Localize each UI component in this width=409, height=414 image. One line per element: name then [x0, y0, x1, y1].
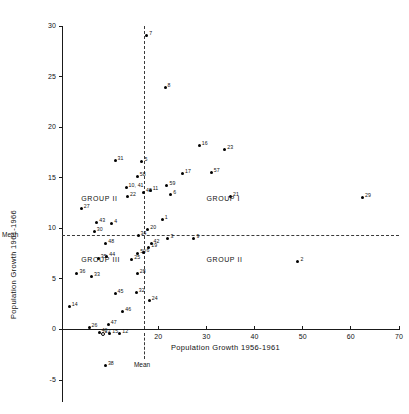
- data-point-label: 46: [125, 306, 131, 312]
- data-point: [110, 222, 113, 225]
- data-point-label: 17: [185, 168, 191, 174]
- data-point: [68, 305, 71, 308]
- data-point: [166, 237, 169, 240]
- data-point: [118, 332, 121, 335]
- data-point-label: 30: [97, 226, 103, 232]
- x-tick: [158, 326, 159, 330]
- data-point: [137, 234, 140, 237]
- data-point-label: 7: [149, 30, 152, 36]
- data-point: [107, 323, 110, 326]
- data-point: [169, 193, 172, 196]
- data-point-label: 23: [227, 144, 233, 150]
- data-point-label: 19: [151, 242, 157, 248]
- data-point-label: 15: [112, 328, 118, 334]
- data-point-label: 14: [72, 301, 78, 307]
- data-point-label: 57: [214, 167, 220, 173]
- data-point: [104, 364, 107, 367]
- x-tick-label: 30: [196, 333, 216, 340]
- data-point-label: 27: [84, 203, 90, 209]
- group-label: GROUP III: [81, 256, 120, 263]
- data-point-label: 34: [141, 230, 147, 236]
- mean-horizontal-line: [62, 235, 399, 236]
- data-point: [104, 242, 107, 245]
- data-point: [296, 260, 299, 263]
- data-point: [165, 184, 168, 187]
- data-point: [75, 272, 78, 275]
- mean-x-label: Mean: [134, 361, 150, 368]
- data-point-label: 26: [92, 322, 98, 328]
- x-tick-label: 20: [148, 333, 168, 340]
- data-point-label: 29: [365, 192, 371, 198]
- data-point-label: 43: [99, 217, 105, 223]
- data-point: [114, 159, 117, 162]
- x-tick: [350, 326, 351, 330]
- data-point: [145, 34, 148, 37]
- scatter-chart: 302520151050-5 203040506070 781623315571…: [0, 0, 409, 414]
- data-point-label: 36: [79, 268, 85, 274]
- data-point: [148, 299, 151, 302]
- data-point-label: 3: [170, 233, 173, 239]
- data-point: [121, 310, 124, 313]
- group-label: GROUP II: [206, 256, 242, 263]
- data-point: [125, 186, 128, 189]
- y-tick: [59, 127, 63, 128]
- data-point: [192, 237, 195, 240]
- data-point: [223, 148, 226, 151]
- data-point: [126, 195, 129, 198]
- group-label: GROUP II: [81, 195, 117, 202]
- data-point-label: 33: [94, 271, 100, 277]
- x-tick: [206, 326, 207, 330]
- data-point: [136, 272, 139, 275]
- x-tick: [399, 326, 400, 330]
- y-tick: [59, 329, 63, 330]
- data-point: [135, 291, 138, 294]
- data-point-label: 2: [300, 256, 303, 262]
- data-point-label: 31: [118, 155, 124, 161]
- x-tick-label: 60: [341, 333, 361, 340]
- x-axis-title: Population Growth 1956-1961: [171, 343, 280, 352]
- x-tick-label: 50: [293, 333, 313, 340]
- group-label: GROUP I: [206, 195, 240, 202]
- data-point-label: 49: [146, 187, 152, 193]
- data-point-label: 1: [165, 214, 168, 220]
- y-tick: [59, 177, 63, 178]
- data-point: [90, 275, 93, 278]
- mean-vertical-line-lower: [144, 333, 145, 359]
- x-tick: [302, 326, 303, 330]
- data-point: [361, 196, 364, 199]
- data-point: [93, 230, 96, 233]
- data-point: [164, 86, 167, 89]
- data-point-label: 9: [196, 233, 199, 239]
- data-point-label: 6: [173, 189, 176, 195]
- data-point-label: 24: [152, 295, 158, 301]
- data-point-label: 47: [111, 319, 117, 325]
- x-tick-label: 70: [389, 333, 409, 340]
- data-point: [95, 221, 98, 224]
- mean-vertical-line: [144, 26, 145, 329]
- y-tick: [59, 76, 63, 77]
- data-point: [181, 172, 184, 175]
- y-tick-label: -5: [0, 376, 56, 383]
- y-axis-title: Population Growth 1961-1966: [9, 210, 18, 319]
- data-point: [136, 175, 139, 178]
- data-point-label: 11: [153, 185, 159, 191]
- data-point-label: 32: [139, 287, 145, 293]
- mean-y-label: Mean: [2, 231, 18, 238]
- y-axis-line: [62, 26, 63, 402]
- data-point-label: 8: [168, 82, 171, 88]
- y-tick-label: 25: [0, 73, 56, 80]
- data-point: [146, 228, 149, 231]
- data-point-label: 59: [169, 180, 175, 186]
- y-tick-label: 15: [0, 174, 56, 181]
- x-tick: [254, 326, 255, 330]
- data-point-label: 4: [114, 218, 117, 224]
- x-tick-label: 40: [245, 333, 265, 340]
- data-point-label: 12: [122, 328, 128, 334]
- data-point: [88, 326, 91, 329]
- data-point-label: 22: [130, 191, 136, 197]
- data-point-label: 25: [134, 254, 140, 260]
- data-point: [130, 258, 133, 261]
- data-point: [80, 207, 83, 210]
- data-point: [114, 292, 117, 295]
- data-point-label: 28: [140, 268, 146, 274]
